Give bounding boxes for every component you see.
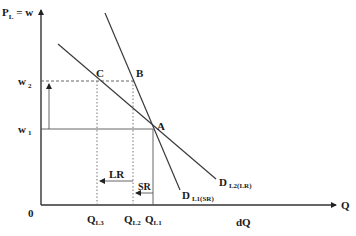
point-c-label: C [96,67,104,79]
sr-label: SR [138,181,152,192]
dq-label: dQ [236,216,251,228]
w2-label: w2 [18,75,32,90]
ql2-label: QL2 [124,213,141,227]
point-a-label: A [157,120,165,132]
short-run-demand-label: DL1(SR) [182,189,214,203]
ql3-label: QL3 [87,213,104,227]
ql1-label: QL1 [145,213,162,227]
long-run-demand-label: DL2(LR) [219,176,252,190]
lr-label: LR [109,168,125,180]
w1-label: w1 [18,123,32,137]
origin-label: 0 [28,207,34,219]
long-run-demand-curve [58,44,216,179]
y-axis-label: PL = w [2,6,33,21]
point-b-label: B [136,67,144,79]
x-axis-label: Q [341,199,350,211]
labour-demand-diagram: PL = w w2 w1 C B A LR SR DL2(LR) DL1(SR)… [0,0,356,236]
short-run-demand-curve [105,13,180,190]
